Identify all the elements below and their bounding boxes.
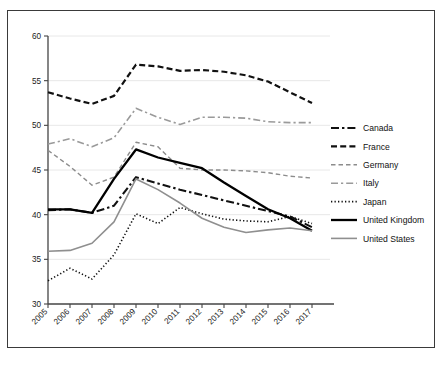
x-tick-label: 2013 (206, 307, 226, 327)
y-tick-label: 35 (32, 255, 42, 264)
x-tick-label: 2007 (74, 307, 94, 327)
x-tick-label: 2015 (250, 307, 270, 327)
x-axis-ticks: 2005200620072008200920102011201220132014… (30, 304, 314, 326)
series-line-france (48, 65, 312, 104)
legend-label-germany: Germany (363, 160, 399, 170)
y-tick-label: 40 (32, 211, 42, 220)
legend-label-canada: Canada (363, 123, 393, 133)
x-tick-label: 2012 (184, 307, 204, 327)
chart-legend: CanadaFranceGermanyItalyJapanUnited King… (331, 123, 424, 243)
y-tick-label: 55 (32, 77, 42, 86)
legend-label-united-states: United States (363, 234, 415, 244)
line-chart: 30354045505560 2005200620072008200920102… (0, 0, 447, 369)
series-line-italy (48, 108, 312, 146)
x-tick-label: 2006 (52, 307, 72, 327)
chart-svg: 30354045505560 2005200620072008200920102… (0, 0, 447, 369)
x-tick-label: 2010 (140, 307, 160, 327)
x-tick-label: 2011 (163, 307, 182, 326)
x-tick-label: 2016 (272, 307, 292, 327)
legend-label-italy: Italy (363, 178, 379, 188)
y-tick-label: 30 (32, 300, 42, 309)
x-tick-label: 2017 (294, 307, 314, 327)
y-axis-ticks: 30354045505560 (32, 32, 48, 309)
x-tick-label: 2008 (96, 307, 116, 327)
x-tick-label: 2005 (30, 307, 50, 327)
x-tick-label: 2009 (118, 307, 138, 327)
legend-label-france: France (363, 142, 390, 152)
legend-label-japan: Japan (363, 197, 387, 207)
y-tick-label: 45 (32, 166, 42, 175)
legend-label-united-kingdom: United Kingdom (363, 215, 424, 225)
data-series (48, 65, 312, 281)
y-tick-label: 60 (32, 32, 42, 41)
y-tick-label: 50 (32, 121, 42, 130)
x-tick-label: 2014 (228, 307, 248, 327)
